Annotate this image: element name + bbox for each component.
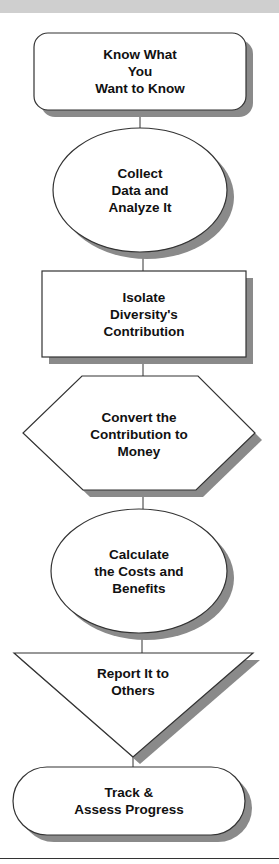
step-1-label: Know What You Want to Know [34, 33, 246, 110]
bottom-divider [0, 858, 279, 859]
step-7-label: Track & Assess Progress [13, 767, 245, 835]
step-4-label: Convert the Contribution to Money [23, 378, 255, 490]
step-5-label: Calculate the Costs and Benefits [51, 509, 227, 633]
step-6-label: Report It to Others [50, 662, 216, 702]
step-3-label: Isolate Diversity's Contribution [42, 271, 246, 357]
step-2-label: Collect Data and Analyze It [53, 128, 227, 252]
